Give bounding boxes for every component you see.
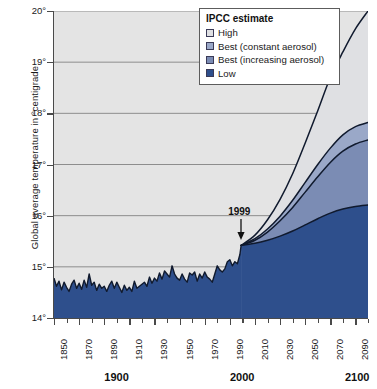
- x-axis-line: [53, 318, 368, 319]
- observed-temperature-series: [54, 245, 241, 318]
- x-axis-tick: [280, 319, 281, 325]
- y-axis-tick-label: 15°: [16, 262, 46, 272]
- x-axis-tick-label: 1930: [158, 339, 169, 360]
- legend-swatch: [206, 69, 214, 77]
- x-axis-tick: [154, 319, 155, 325]
- legend-item-label: Best (constant aerosol): [218, 41, 317, 52]
- x-axis-tick: [117, 319, 118, 323]
- legend-items: HighBest (constant aerosol)Best (increas…: [206, 26, 334, 80]
- y-axis-tick: [47, 216, 54, 217]
- x-axis-tick: [230, 319, 231, 325]
- legend-item: Best (increasing aerosol): [206, 53, 334, 67]
- x-axis-tick-label: 1850: [58, 339, 69, 360]
- y-axis-tick-label: 17°: [16, 160, 46, 170]
- x-axis-tick: [79, 319, 80, 325]
- y-axis-tick-labels: 14°15°16°17°18°19°20°: [14, 0, 46, 330]
- x-axis-tick-label: 1990: [234, 339, 245, 360]
- y-axis-tick: [47, 267, 54, 268]
- x-axis-tick: [305, 319, 306, 325]
- legend-swatch: [206, 42, 214, 50]
- legend-item-label: High: [218, 27, 238, 38]
- x-axis-tick-label: 1870: [83, 339, 94, 360]
- x-axis-tick-label: 1890: [108, 339, 119, 360]
- x-axis-tick: [104, 319, 105, 325]
- x-axis-tick: [217, 319, 218, 323]
- x-axis-tick: [268, 319, 269, 323]
- x-axis-tick: [242, 319, 243, 323]
- x-axis-tick: [205, 319, 206, 325]
- legend-item: Best (constant aerosol): [206, 40, 334, 54]
- legend-item-label: Best (increasing aerosol): [218, 54, 324, 65]
- y-axis-tick: [47, 113, 54, 114]
- annotation-arrow-1999: [236, 219, 246, 241]
- x-axis-tick: [318, 319, 319, 323]
- x-axis-tick: [92, 319, 93, 323]
- x-axis-tick: [255, 319, 256, 325]
- legend-item-label: Low: [218, 68, 236, 79]
- x-axis-tick: [167, 319, 168, 323]
- legend-swatch: [206, 29, 214, 37]
- x-axis-tick-label: 2050: [309, 339, 320, 360]
- x-axis-tick-label: 1910: [133, 339, 144, 360]
- annotation-label-1999: 1999: [228, 206, 250, 217]
- x-axis-tick: [293, 319, 294, 323]
- y-axis-tick: [47, 165, 54, 166]
- x-axis-century-label: 1900: [104, 371, 128, 383]
- x-axis-tick-label: 2070: [334, 339, 345, 360]
- x-axis-century-label: 2100: [345, 371, 369, 383]
- y-axis-tick-label: 14°: [16, 313, 46, 323]
- x-axis-tick: [330, 319, 331, 325]
- x-axis-century-label: 2000: [230, 371, 254, 383]
- legend-item: High: [206, 26, 334, 40]
- y-axis-tick-label: 19°: [16, 57, 46, 67]
- x-axis-tick-label: 2010: [259, 339, 270, 360]
- x-axis-tick: [355, 319, 356, 325]
- legend: IPCC estimate HighBest (constant aerosol…: [199, 8, 340, 85]
- x-axis-tick: [129, 319, 130, 325]
- legend-item: Low: [206, 67, 334, 81]
- y-axis-tick: [47, 318, 54, 319]
- y-axis-tick-label: 20°: [16, 6, 46, 16]
- x-axis-tick-label: 2030: [284, 339, 295, 360]
- y-axis-tick-label: 16°: [16, 211, 46, 221]
- x-axis-tick-label: 1970: [209, 339, 220, 360]
- x-axis-tick-label: 2090: [359, 339, 370, 360]
- x-axis-tick: [142, 319, 143, 323]
- y-axis-tick-label: 18°: [16, 108, 46, 118]
- x-axis-tick: [368, 319, 369, 323]
- legend-title: IPCC estimate: [206, 13, 334, 24]
- legend-swatch: [206, 56, 214, 64]
- climate-projection-chart: Global average temperature in °centigrad…: [0, 0, 377, 389]
- y-axis-tick: [47, 62, 54, 63]
- x-axis-tick: [54, 319, 55, 325]
- x-axis-tick-label: 1950: [184, 339, 195, 360]
- x-axis-tick: [180, 319, 181, 325]
- x-axis-tick: [67, 319, 68, 323]
- x-axis-tick: [192, 319, 193, 323]
- x-axis-tick: [343, 319, 344, 323]
- y-axis-tick: [47, 11, 54, 12]
